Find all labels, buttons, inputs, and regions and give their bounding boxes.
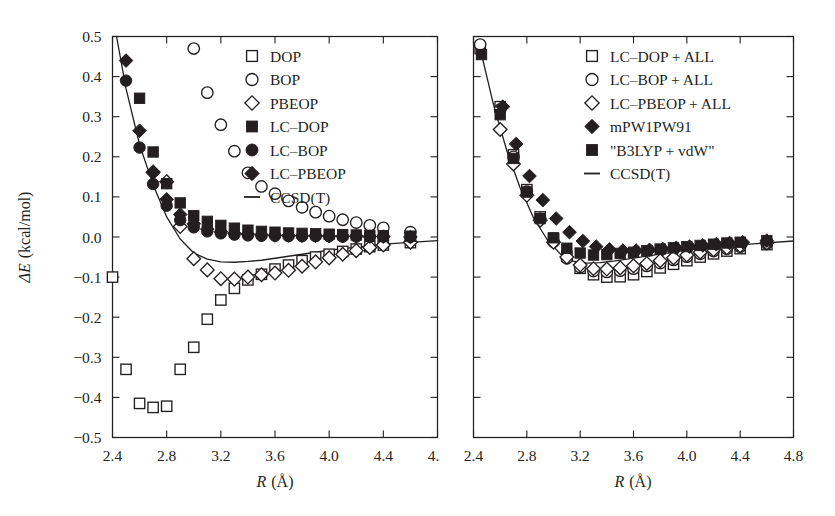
y-tick-label: 0.0 <box>82 229 102 246</box>
y-tick-label: −0.4 <box>73 389 101 406</box>
marker-diamond-open <box>245 96 259 110</box>
marker-circle-filled <box>246 144 258 156</box>
marker-square-filled <box>668 243 678 253</box>
marker-square-filled <box>247 121 258 132</box>
marker-circle-open <box>256 181 267 192</box>
marker-diamond-filled <box>563 225 577 239</box>
y-tick-label: −0.2 <box>73 309 101 326</box>
marker-square-open <box>587 51 598 62</box>
marker-square-filled <box>762 235 772 245</box>
x-tick-label: 4.8 <box>784 447 804 464</box>
x-tick-label: 3.2 <box>570 447 589 464</box>
legend-label: CCSD(T) <box>270 189 330 207</box>
y-tick-label: 0.3 <box>82 108 102 125</box>
marker-diamond-filled <box>585 119 599 133</box>
marker-square-filled <box>535 213 545 223</box>
y-tick-label: −0.5 <box>73 429 101 446</box>
y-axis-title: ΔE(kcal/mol) <box>16 192 34 284</box>
y-tick-label: −0.1 <box>73 269 101 286</box>
marker-circle-open <box>323 210 334 221</box>
marker-diamond-filled <box>523 169 537 183</box>
y-tick-label: −0.3 <box>73 349 101 366</box>
marker-square-filled <box>708 239 718 249</box>
series-lc-pbeop <box>119 54 417 244</box>
legend-label: BOP <box>270 71 300 88</box>
marker-circle-open <box>188 43 199 54</box>
marker-diamond-filled <box>576 234 590 248</box>
legend-label: "B3LYP + vdW" <box>610 142 715 159</box>
marker-diamond-filled <box>509 137 523 151</box>
x-axis-title: R(Å) <box>614 473 652 491</box>
marker-square-filled <box>161 178 171 188</box>
legend-label: LC–PBEOP + ALL <box>610 95 731 112</box>
x-tick-label: 3.6 <box>265 447 285 464</box>
marker-square-filled <box>134 93 144 103</box>
marker-square-filled <box>495 110 505 120</box>
series-lc-bop <box>120 75 416 243</box>
marker-square-open <box>189 342 199 352</box>
marker-square-open <box>247 51 258 62</box>
marker-square-filled <box>562 243 572 253</box>
marker-square-filled <box>588 250 598 260</box>
y-tick-label: 0.5 <box>82 28 102 45</box>
marker-circle-open <box>246 74 258 86</box>
chart-svg-right: 2.42.83.23.64.04.44.8 LC–DOP + ALLLC–BOP… <box>440 0 835 516</box>
marker-square-filled <box>655 244 665 254</box>
marker-square-filled <box>642 245 652 255</box>
legend-label: PBEOP <box>270 95 318 112</box>
marker-square-open <box>107 272 117 282</box>
axis-tick-labels: 2.42.83.23.64.04.44.8 <box>464 447 804 464</box>
series-pbeop <box>146 165 417 286</box>
marker-circle-open <box>229 145 240 156</box>
x-tick-label: 4.0 <box>319 447 339 464</box>
x-tick-label: 4.8 <box>428 447 440 464</box>
legend-label: CCSD(T) <box>610 165 670 183</box>
marker-diamond-open <box>585 96 599 110</box>
marker-square-filled <box>508 153 518 163</box>
marker-square-filled <box>476 49 486 59</box>
marker-square-filled <box>722 238 732 248</box>
series-bop <box>188 43 416 238</box>
marker-circle-filled <box>134 142 145 153</box>
marker-square-filled <box>548 233 558 243</box>
marker-square-open <box>148 402 158 412</box>
marker-diamond-filled <box>536 193 550 207</box>
marker-square-filled <box>587 145 598 156</box>
marker-diamond-open <box>200 263 214 277</box>
marker-circle-open <box>337 214 348 225</box>
legend-label: LC–DOP <box>270 118 329 135</box>
legend-label: DOP <box>270 48 301 65</box>
marker-circle-filled <box>120 75 131 86</box>
marker-diamond-open <box>493 123 507 137</box>
marker-diamond-filled <box>146 166 160 180</box>
marker-circle-open <box>202 87 213 98</box>
x-tick-label: 3.2 <box>211 447 230 464</box>
marker-circle-open <box>215 119 226 130</box>
x-tick-label: 2.4 <box>103 447 123 464</box>
y-tick-label: 0.4 <box>82 68 102 85</box>
marker-circle-open <box>310 206 321 217</box>
marker-square-filled <box>615 248 625 258</box>
marker-diamond-open <box>187 252 201 266</box>
marker-square-open <box>216 295 226 305</box>
x-tick-label: 3.6 <box>624 447 644 464</box>
y-tick-label: 0.1 <box>82 188 101 205</box>
marker-circle-open <box>351 217 362 228</box>
marker-square-filled <box>175 198 185 208</box>
legend-label: LC–DOP + ALL <box>610 48 714 65</box>
x-tick-label: 2.4 <box>464 447 484 464</box>
plot-area-right: 2.42.83.23.64.04.44.8 LC–DOP + ALLLC–BOP… <box>464 37 804 464</box>
marker-square-filled <box>695 240 705 250</box>
x-tick-label: 4.4 <box>374 447 394 464</box>
marker-diamond-filled <box>549 212 563 226</box>
marker-circle-open <box>474 39 485 50</box>
marker-square-filled <box>575 248 585 258</box>
chart-panel-right: 2.42.83.23.64.04.44.8 LC–DOP + ALLLC–BOP… <box>440 0 835 516</box>
marker-square-filled <box>522 187 532 197</box>
x-tick-label: 4.4 <box>730 447 750 464</box>
marker-square-filled <box>602 249 612 259</box>
x-tick-label: 2.8 <box>517 447 537 464</box>
marker-circle-open <box>586 74 598 86</box>
legend-right: LC–DOP + ALLLC–BOP + ALLLC–PBEOP + ALLmP… <box>584 48 731 184</box>
chart-panel-left: 2.42.83.23.64.04.44.80.50.40.30.20.10.0−… <box>0 0 440 516</box>
